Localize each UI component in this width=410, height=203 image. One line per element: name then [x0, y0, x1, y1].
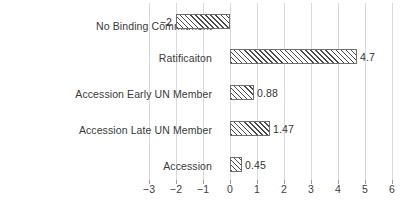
gridline-x-6 [392, 3, 393, 180]
xtick-label-3: 0 [215, 183, 245, 195]
bar-accession-late-un-member [230, 121, 270, 136]
value-label-accession: 0.45 [245, 159, 266, 171]
xtick-label-6: 3 [296, 183, 326, 195]
gridline-x-4 [338, 3, 339, 180]
value-label-no-binding-commitment: −2 [140, 16, 172, 28]
xtick-label-8: 5 [350, 183, 380, 195]
value-label-ratificaiton: 4.7 [360, 51, 375, 63]
value-label-accession-late-un-member: 1.47 [273, 123, 294, 135]
category-label-ratificaiton: Ratificaiton [0, 52, 212, 64]
gridline-x-5 [365, 3, 366, 180]
xtick-label-5: 2 [269, 183, 299, 195]
xtick-label-7: 4 [323, 183, 353, 195]
category-label-accession: Accession [0, 160, 212, 172]
gridline-x-3 [311, 3, 312, 180]
value-label-accession-early-un-member: 0.88 [257, 87, 278, 99]
xtick-label-4: 1 [242, 183, 272, 195]
category-label-accession-late-un-member: Accession Late UN Member [0, 124, 212, 136]
xtick-label-2: −1 [188, 183, 218, 195]
bar-accession-early-un-member [230, 85, 254, 100]
xtick-label-9: 6 [377, 183, 407, 195]
bar-no-binding-commitment [176, 14, 230, 29]
bar-accession [230, 157, 242, 172]
gridline-x-2 [284, 3, 285, 180]
xtick-label-1: −2 [161, 183, 191, 195]
bar-ratificaiton [230, 49, 357, 64]
plot-area: −3 −2 −1 0 1 2 3 4 5 6 No Binding Commit… [0, 0, 410, 203]
bar-chart: −3 −2 −1 0 1 2 3 4 5 6 No Binding Commit… [0, 0, 410, 203]
xtick-label-0: −3 [134, 183, 164, 195]
category-label-accession-early-un-member: Accession Early UN Member [0, 88, 212, 100]
